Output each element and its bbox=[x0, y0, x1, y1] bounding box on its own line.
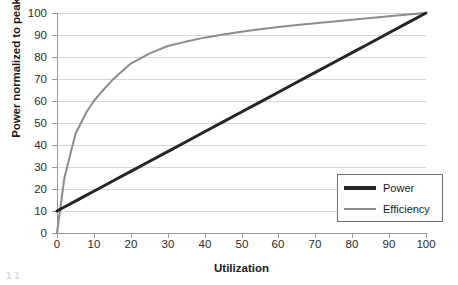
x-axis-title: Utilization bbox=[57, 262, 426, 274]
chart-container: Power normalized to peak 100 90 80 70 60… bbox=[0, 0, 458, 285]
legend-swatch-power-icon bbox=[344, 186, 376, 190]
legend-item-power: Power bbox=[344, 179, 414, 197]
legend-label-efficiency: Efficiency bbox=[383, 203, 430, 215]
chart-legend: Power Efficiency bbox=[337, 174, 443, 222]
legend-swatch-efficiency-icon bbox=[344, 208, 376, 210]
legend-label-power: Power bbox=[383, 182, 414, 194]
plot-lines bbox=[0, 0, 458, 285]
legend-item-efficiency: Efficiency bbox=[344, 200, 430, 218]
page-artifact-text: 1 1 bbox=[6, 272, 20, 280]
